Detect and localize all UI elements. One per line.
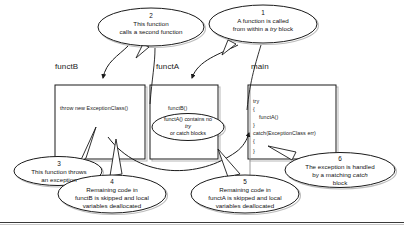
callout-2-line-1: This function [133,20,168,27]
callout-2: 2 This function calls a second function [98,12,204,36]
functA-label: functA [156,63,179,72]
callout-6: 6 The exception is handled by a matching… [286,155,394,186]
functA-code-line-0: functB() [168,105,187,111]
main-code-line-6: } [253,148,255,154]
functA-note: functA() contains no try or catch blocks [152,116,224,137]
callout-3-line-1: This function throws [31,168,86,175]
callout-4-line-3: variables deallocated [83,202,142,209]
functA-note-line-2: try [185,123,191,129]
tail-bubble5 [218,149,240,177]
main-code-line-3: } [253,122,255,128]
callout-6-line-3: block [333,179,348,186]
callout-5-number: 5 [192,178,298,186]
callout-4-line-1: Remaining code in [86,186,138,193]
callout-6-number: 6 [286,155,394,163]
main-code-line-5: { [253,138,255,144]
callout-5: 5 Remaining code in functA is skipped an… [192,178,298,209]
callout-5-line-2: functA is skipped and local [208,194,281,201]
main-box [248,85,336,159]
callout-1-line-2: from within a try block [233,25,293,32]
main-code-line-1: { [253,106,255,112]
functA-note-line-3: or catch blocks [170,130,206,136]
callout-2-number: 2 [98,12,204,20]
functA-note-line-1: functA() contains no [164,116,212,122]
main-code-line-4: catch(ExceptionClass err) [253,130,316,136]
bottom-divider [0,222,404,223]
callout-5-line-3: variables deallocated [216,202,275,209]
callout-1-line-1: A function is called [237,17,289,24]
callout-1-number: 1 [210,9,316,17]
callout-1: 1 A function is called from within a try… [210,9,316,33]
functB-box [55,85,145,159]
arrow-bubble2-to-functB [103,46,128,78]
main-code-line-0: try [253,98,259,104]
functB-code-line-0: throw new ExceptionClass() [60,105,128,111]
callout-1-keyword: try [270,25,277,32]
bottom-divider-shadow [0,224,404,225]
callout-6-line-2: by a matching catch [312,171,367,178]
callout-3-number: 3 [15,160,103,168]
main-label: main [251,63,269,72]
diagram-canvas: functB functA main throw new ExceptionCl… [0,0,404,232]
functB-label: functB [55,63,78,72]
callout-6-line-2-text: by a matching catch [312,171,367,178]
arrow-bubble1-to-functA [192,45,238,78]
callout-4-line-2: functB is skipped and local [75,194,149,201]
callout-6-keyword: catch [353,171,368,178]
callout-5-line-1: Remaining code in [219,186,271,193]
callout-6-line-1: The exception is handled [305,163,374,170]
callout-1-line-2-text: from within a try block [233,25,293,32]
main-code-line-2: functA() [259,114,278,120]
callout-4-number: 4 [59,178,165,186]
callout-2-line-2: calls a second function [119,28,182,35]
callout-4: 4 Remaining code in functB is skipped an… [59,178,165,209]
